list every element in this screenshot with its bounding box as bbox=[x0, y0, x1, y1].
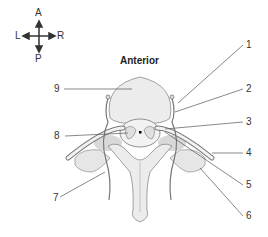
label-9: 9 bbox=[54, 84, 60, 94]
compass-arrows-icon bbox=[23, 21, 55, 52]
diagram-title: Anterior bbox=[120, 55, 159, 66]
compass-right-label: R bbox=[57, 31, 64, 41]
vertebral-body bbox=[109, 77, 171, 124]
label-8: 8 bbox=[54, 131, 60, 141]
vertebra-diagram bbox=[0, 0, 268, 237]
label-5: 5 bbox=[246, 180, 252, 190]
label-1: 1 bbox=[246, 40, 252, 50]
compass-left-label: L bbox=[15, 31, 21, 41]
left-ganglion bbox=[106, 95, 110, 99]
label-7: 7 bbox=[53, 193, 59, 203]
compass-posterior-label: P bbox=[35, 54, 42, 64]
compass-anterior-label: A bbox=[35, 8, 42, 18]
label-2: 2 bbox=[246, 84, 252, 94]
label-3: 3 bbox=[246, 117, 252, 127]
label-6: 6 bbox=[246, 211, 252, 221]
central-canal bbox=[139, 131, 142, 134]
right-ganglion bbox=[170, 95, 174, 99]
label-4: 4 bbox=[246, 148, 252, 158]
